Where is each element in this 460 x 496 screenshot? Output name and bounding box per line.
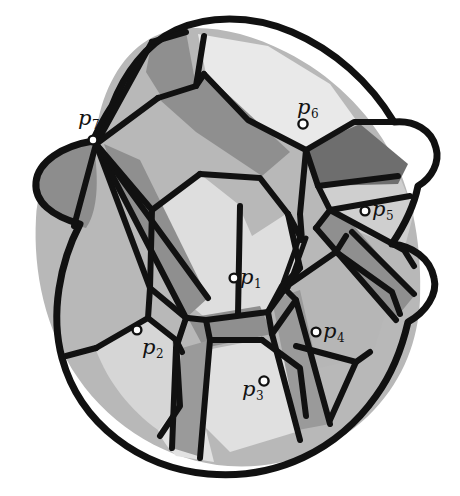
site-label-p7: p7 xyxy=(78,108,99,129)
site-label-p1: p1 xyxy=(240,267,261,288)
site-label-p3: p3 xyxy=(242,379,263,400)
site-label-p5: p5 xyxy=(372,199,393,220)
site-label-p7-letter: p xyxy=(78,106,91,130)
site-label-p7-sub: 7 xyxy=(92,118,100,132)
figure-root: p1 p2 p3 p4 p5 p6 p7 xyxy=(0,0,460,496)
site-label-p2-letter: p xyxy=(142,335,155,359)
site-label-p2-sub: 2 xyxy=(156,347,164,361)
site-label-p4-letter: p xyxy=(323,319,336,343)
site-label-p1-letter: p xyxy=(240,265,253,289)
site-label-p2: p2 xyxy=(142,337,163,358)
site-dot-p6[interactable] xyxy=(298,119,307,128)
site-dot-p2[interactable] xyxy=(133,326,142,335)
cell-decomposition-diagram xyxy=(0,0,460,496)
site-label-p5-sub: 5 xyxy=(386,209,394,223)
site-label-p3-letter: p xyxy=(242,377,255,401)
site-dot-p7[interactable] xyxy=(89,136,98,145)
site-label-p1-sub: 1 xyxy=(254,277,262,291)
site-label-p5-letter: p xyxy=(372,197,385,221)
site-label-p6: p6 xyxy=(297,97,318,118)
edge-central-vertical xyxy=(238,206,240,314)
site-dot-p4[interactable] xyxy=(312,328,321,337)
site-dot-p1[interactable] xyxy=(230,274,239,283)
site-dot-p5[interactable] xyxy=(361,207,370,216)
site-label-p6-letter: p xyxy=(297,95,310,119)
site-label-p4: p4 xyxy=(323,321,344,342)
site-label-p6-sub: 6 xyxy=(311,107,319,121)
site-label-p3-sub: 3 xyxy=(256,389,264,403)
site-label-p4-sub: 4 xyxy=(337,331,345,345)
